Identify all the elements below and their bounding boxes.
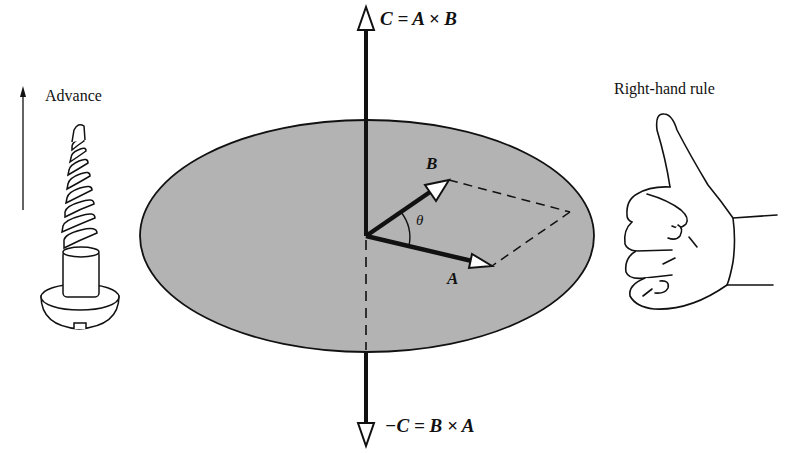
angle-theta-label: θ [416,212,423,229]
top-equation-label: C = A × B [380,8,457,30]
advance-caption: Advance [45,87,102,105]
advance-arrow-icon [20,86,26,210]
bottom-equation-label: −C = B × A [385,415,474,437]
vector-b-label: B [426,154,437,174]
right-hand-icon [625,114,777,309]
right-hand-rule-caption: Right-hand rule [614,80,715,98]
screw-icon [41,125,119,329]
vector-a-label: A [447,269,458,289]
cross-product-diagram: C = A × B −C = B × A Advance Right-hand … [0,0,789,453]
vector-neg-c-arrow [358,352,374,446]
